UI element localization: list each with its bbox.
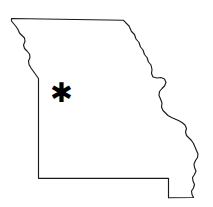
missouri-outline-map-figure: ✱ bbox=[0, 0, 213, 207]
missouri-state-outline-path bbox=[12, 19, 199, 198]
asterisk-marker-icon: ✱ bbox=[50, 77, 73, 108]
map-canvas: ✱ bbox=[0, 0, 213, 207]
